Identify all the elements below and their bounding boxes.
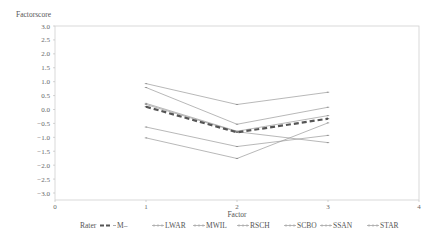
y-tick-label: −0.5 xyxy=(37,120,50,128)
y-tick-label: −3.0 xyxy=(37,190,50,198)
legend-title: Rater xyxy=(80,221,97,230)
series-line-rsch xyxy=(146,103,328,131)
series-lines xyxy=(145,84,329,159)
y-tick-label: 1.0 xyxy=(41,78,50,86)
x-tick-label: 3 xyxy=(326,203,330,211)
legend-label: SCBO xyxy=(297,221,317,230)
series-line-star xyxy=(146,123,328,159)
legend-label: STAR xyxy=(380,221,399,230)
legend-item-m: M– xyxy=(100,221,128,230)
legend: M–LWARMWILRSCHSCBOSSANSTAR xyxy=(100,221,399,230)
legend-item-ssan: SSAN xyxy=(320,221,353,230)
y-tick-label: 1.5 xyxy=(41,64,50,72)
factorscore-line-chart: Factorscore 3.02.52.01.51.00.50.0−0.5−1.… xyxy=(0,0,434,237)
legend-item-mwil: MWIL xyxy=(193,221,227,230)
y-tick-label: 0.5 xyxy=(41,92,50,100)
x-axis-title: Factor xyxy=(227,210,247,219)
y-axis-title: Factorscore xyxy=(16,10,52,19)
series-line-lwar xyxy=(146,84,328,105)
legend-item-star: STAR xyxy=(367,221,399,230)
y-tick-label: −1.0 xyxy=(37,134,50,142)
legend-item-lwar: LWAR xyxy=(152,221,186,230)
series-line-scbo xyxy=(146,104,328,142)
y-tick-label: −2.5 xyxy=(37,176,50,184)
series-line-ssan xyxy=(146,127,328,146)
series-line-m xyxy=(146,107,328,133)
legend-label: M– xyxy=(117,221,128,230)
y-tick-label: 3.0 xyxy=(41,23,50,31)
legend-label: LWAR xyxy=(165,221,186,230)
y-tick-label: −1.5 xyxy=(37,148,50,156)
y-axis-ticks: 3.02.52.01.51.00.50.0−0.5−1.0−1.5−2.0−2.… xyxy=(37,23,55,198)
legend-label: RSCH xyxy=(250,221,270,230)
y-tick-label: 2.0 xyxy=(41,50,50,58)
legend-item-scbo: SCBO xyxy=(284,221,317,230)
y-tick-label: 2.5 xyxy=(41,36,50,44)
y-tick-label: −2.0 xyxy=(37,162,50,170)
y-tick-label: 0.0 xyxy=(41,106,50,114)
plot-frame xyxy=(55,26,419,200)
legend-item-rsch: RSCH xyxy=(237,221,270,230)
x-tick-label: 0 xyxy=(53,203,57,211)
x-tick-label: 1 xyxy=(144,203,148,211)
x-tick-label: 4 xyxy=(417,203,421,211)
legend-label: SSAN xyxy=(333,221,353,230)
legend-label: MWIL xyxy=(206,221,227,230)
series-line-mwil xyxy=(146,88,328,125)
